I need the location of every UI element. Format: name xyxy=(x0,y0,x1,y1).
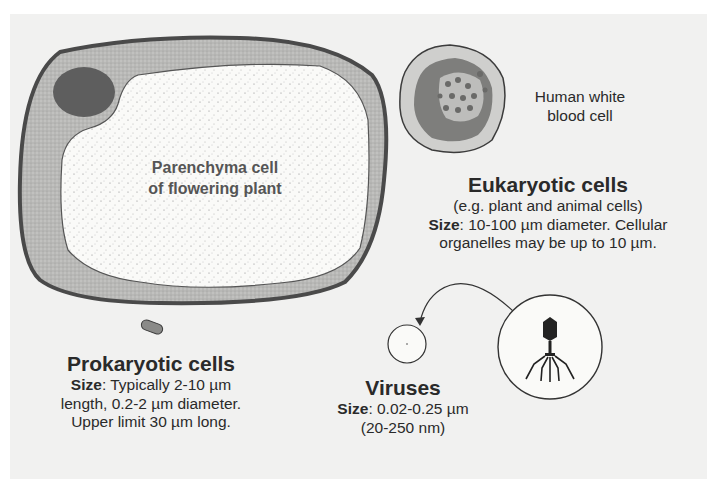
wbc-label-line2: blood cell xyxy=(520,107,640,126)
viruses-size: Size: 0.02-0.25 µm xyxy=(318,400,488,419)
bacteriophage-icon xyxy=(498,295,602,399)
wbc-label-line1: Human white xyxy=(520,88,640,107)
bacterium-icon xyxy=(140,319,164,336)
size-label: Size xyxy=(337,400,368,417)
plant-cell-label: Parenchyma cell of flowering plant xyxy=(130,158,300,200)
plant-cell-label-line1: Parenchyma cell xyxy=(130,158,300,179)
prokaryotic-block: Prokaryotic cells Size: Typically 2-10 µ… xyxy=(26,351,276,432)
viruses-block: Viruses Size: 0.02-0.25 µm (20-250 nm) xyxy=(318,375,488,437)
white-blood-cell xyxy=(400,45,505,152)
eukaryotic-subtitle: (e.g. plant and animal cells) xyxy=(398,197,698,216)
plant-cell-label-line2: of flowering plant xyxy=(130,179,300,200)
arrow-icon xyxy=(420,284,514,322)
viruses-size-line2: (20-250 nm) xyxy=(318,419,488,438)
viruses-title: Viruses xyxy=(318,375,488,400)
size-label: Size xyxy=(429,216,460,233)
eukaryotic-size: Size: 10-100 µm diameter. Cellular xyxy=(398,216,698,235)
prokaryotic-size-line2: length, 0.2-2 µm diameter. xyxy=(26,395,276,414)
eukaryotic-size-line2: organelles may be up to 10 µm. xyxy=(398,234,698,253)
size-value: : 0.02-0.25 µm xyxy=(368,400,468,417)
prokaryotic-title: Prokaryotic cells xyxy=(26,351,276,376)
prokaryotic-size-line3: Upper limit 30 µm long. xyxy=(26,413,276,432)
size-value: : 10-100 µm diameter. Cellular xyxy=(460,216,668,233)
prokaryotic-size: Size: Typically 2-10 µm xyxy=(26,376,276,395)
nucleus xyxy=(53,67,115,117)
size-label: Size xyxy=(71,376,102,393)
size-value: : Typically 2-10 µm xyxy=(102,376,231,393)
wbc-label: Human white blood cell xyxy=(520,88,640,125)
eukaryotic-title: Eukaryotic cells xyxy=(398,172,698,197)
eukaryotic-block: Eukaryotic cells (e.g. plant and animal … xyxy=(398,172,698,253)
